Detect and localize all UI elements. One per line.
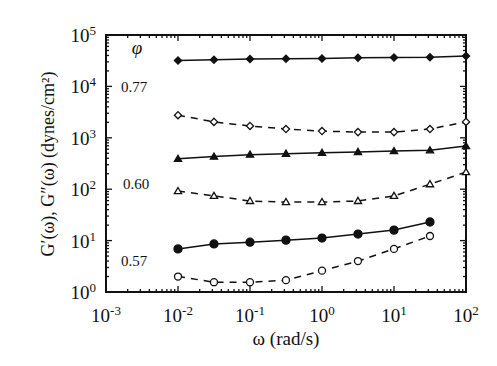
open-diamond-marker bbox=[354, 129, 361, 136]
x-tick-label: 101 bbox=[381, 303, 407, 326]
open-circle-marker bbox=[426, 232, 433, 239]
x-tick-labels: 10-310-210-1100101102 bbox=[91, 303, 479, 326]
open-triangle-marker bbox=[246, 197, 253, 203]
y-axis-label: G′(ω), G″(ω) (dynes/cm²) bbox=[38, 72, 59, 257]
filled-diamond-marker bbox=[390, 54, 397, 61]
phi-value-label: 0.60 bbox=[123, 176, 149, 192]
filled-diamond-marker bbox=[354, 54, 361, 61]
open-diamond-marker bbox=[174, 112, 181, 119]
phi-symbol-label: φ bbox=[132, 37, 143, 58]
filled-diamond-marker bbox=[174, 57, 181, 64]
filled-triangle-marker bbox=[426, 147, 433, 153]
open-circle-marker bbox=[282, 277, 289, 284]
open-diamond-marker bbox=[210, 118, 217, 125]
open-triangle-marker bbox=[282, 199, 289, 205]
open-triangle-marker bbox=[174, 187, 181, 193]
open-diamond-marker bbox=[318, 128, 325, 135]
axis-ticks bbox=[106, 35, 466, 292]
filled-triangle-marker bbox=[210, 153, 217, 159]
series-storage-phi-060 bbox=[174, 142, 469, 161]
open-diamond-marker bbox=[390, 129, 397, 136]
y-tick-label: 103 bbox=[71, 126, 97, 149]
filled-circle-marker bbox=[210, 240, 218, 248]
data-series bbox=[174, 52, 470, 285]
x-tick-label: 10-2 bbox=[163, 303, 193, 326]
filled-circle-marker bbox=[426, 218, 434, 226]
x-tick-label: 100 bbox=[309, 303, 335, 326]
open-triangle-marker bbox=[318, 199, 325, 205]
x-axis-label: ω (rad/s) bbox=[253, 328, 320, 350]
y-tick-labels: 100101102103104105 bbox=[71, 23, 97, 303]
filled-triangle-marker bbox=[390, 148, 397, 154]
filled-circle-marker bbox=[390, 226, 398, 234]
filled-diamond-marker bbox=[426, 54, 433, 61]
filled-circle-marker bbox=[354, 230, 362, 238]
y-tick-label: 104 bbox=[71, 74, 97, 97]
open-circle-marker bbox=[319, 267, 326, 274]
open-circle-marker bbox=[247, 279, 254, 286]
open-circle-marker bbox=[175, 273, 182, 280]
x-tick-label: 10-3 bbox=[91, 303, 121, 326]
phi-value-label: 0.77 bbox=[121, 79, 148, 95]
open-diamond-marker bbox=[462, 118, 469, 125]
open-triangle-marker bbox=[390, 192, 397, 198]
open-circle-marker bbox=[391, 245, 398, 252]
filled-triangle-marker bbox=[282, 150, 289, 156]
filled-triangle-marker bbox=[246, 151, 253, 157]
filled-diamond-marker bbox=[282, 55, 289, 62]
filled-triangle-marker bbox=[174, 155, 181, 161]
filled-diamond-marker bbox=[210, 56, 217, 63]
rheology-chart: 10-310-210-1100101102 100101102103104105… bbox=[0, 0, 497, 366]
filled-triangle-marker bbox=[354, 148, 361, 154]
series-storage-phi-077 bbox=[174, 52, 469, 64]
open-circle-marker bbox=[210, 279, 217, 286]
chart-canvas: 10-310-210-1100101102 100101102103104105… bbox=[0, 0, 497, 366]
open-triangle-marker bbox=[354, 197, 361, 203]
open-triangle-marker bbox=[462, 169, 469, 175]
phi-value-label: 0.57 bbox=[121, 253, 148, 269]
open-diamond-marker bbox=[246, 122, 253, 129]
series-loss-phi-077 bbox=[174, 112, 469, 136]
filled-diamond-marker bbox=[318, 55, 325, 62]
filled-circle-marker bbox=[282, 236, 290, 244]
filled-diamond-marker bbox=[462, 52, 469, 59]
y-tick-label: 105 bbox=[71, 23, 97, 46]
x-tick-label: 10-1 bbox=[235, 303, 265, 326]
plot-border bbox=[106, 35, 466, 292]
y-tick-label: 101 bbox=[71, 229, 97, 252]
filled-circle-marker bbox=[318, 234, 326, 242]
y-tick-label: 100 bbox=[71, 280, 97, 303]
open-circle-marker bbox=[354, 258, 361, 265]
filled-diamond-marker bbox=[246, 55, 253, 62]
filled-circle-marker bbox=[174, 245, 182, 253]
filled-circle-marker bbox=[246, 238, 254, 246]
open-triangle-marker bbox=[426, 181, 433, 187]
y-tick-label: 102 bbox=[71, 177, 97, 200]
open-diamond-marker bbox=[426, 125, 433, 132]
plot-frame bbox=[106, 35, 466, 292]
phi-annotations: φ0.770.600.57 bbox=[121, 37, 149, 269]
filled-triangle-marker bbox=[318, 149, 325, 155]
series-loss-phi-060 bbox=[174, 169, 469, 205]
open-triangle-marker bbox=[210, 192, 217, 198]
x-tick-label: 102 bbox=[453, 303, 479, 326]
open-diamond-marker bbox=[282, 125, 289, 132]
